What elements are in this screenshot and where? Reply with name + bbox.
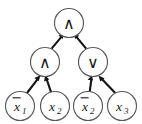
node-circle <box>6 92 35 121</box>
node-circle <box>108 92 137 121</box>
edge-line <box>76 36 86 49</box>
edge-line <box>52 36 62 48</box>
leaf-variable-subscript: 1 <box>22 106 27 116</box>
edge-x2-to-and <box>44 75 51 92</box>
node-leaf-x2[interactable]: x 2 <box>41 92 70 121</box>
edge-x3-to-or <box>99 75 116 93</box>
node-internal-or[interactable]: ∨ <box>79 48 108 77</box>
edge-line <box>101 79 115 93</box>
edge-line <box>90 79 92 93</box>
node-circle <box>74 92 103 121</box>
leaf-variable-subscript: 2 <box>57 106 62 116</box>
leaf-variable-subscript: 2 <box>90 106 95 116</box>
node-internal-and[interactable]: ∧ <box>31 48 60 77</box>
root-operator-label: ∧ <box>63 15 75 32</box>
tree-canvas: ∧ ∧ ∨ x 1 x 2 x 2 x <box>0 0 142 124</box>
edge-notx1-to-and <box>27 75 41 93</box>
node-root[interactable]: ∧ <box>55 9 84 38</box>
node-leaf-not-x1[interactable]: x 1 <box>6 92 35 121</box>
leaf-variable-base: x <box>48 99 55 114</box>
edge-line <box>47 79 52 93</box>
edge-line <box>27 79 38 93</box>
leaf-variable-base: x <box>13 99 20 114</box>
node-leaf-not-x2[interactable]: x 2 <box>74 92 103 121</box>
leaf-variable-base: x <box>81 99 88 114</box>
edge-notx2-to-or <box>88 75 93 92</box>
leaf-variable-subscript: 3 <box>123 106 129 116</box>
leaf-variable-base: x <box>115 99 122 114</box>
expression-tree-diagram: ∧ ∧ ∨ x 1 x 2 x 2 x <box>0 0 142 124</box>
node-circle <box>41 92 70 121</box>
internal-or-operator-label: ∨ <box>87 54 99 71</box>
node-leaf-x3[interactable]: x 3 <box>108 92 137 121</box>
internal-and-operator-label: ∧ <box>39 54 51 71</box>
